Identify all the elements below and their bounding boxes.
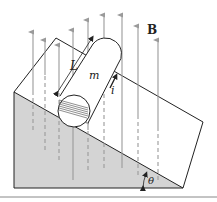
current-label-i: i: [111, 85, 115, 96]
incline-diagram: [0, 0, 217, 202]
field-label-B: B: [147, 24, 157, 36]
mass-label-m: m: [89, 70, 99, 81]
angle-label-theta: θ: [148, 176, 154, 186]
length-label-L: L: [70, 60, 78, 72]
diagram-container: B L m i θ: [0, 0, 217, 202]
